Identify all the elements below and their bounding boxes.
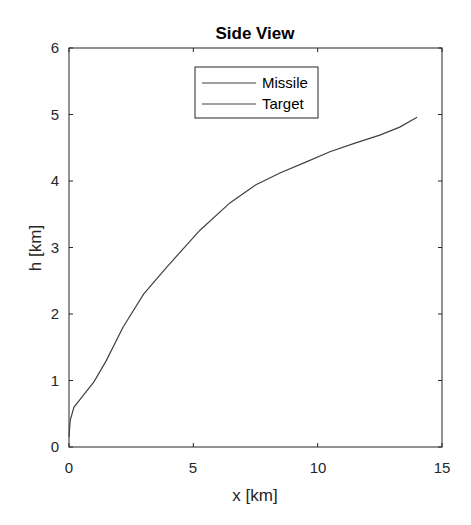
x-axis-label: x [km] xyxy=(232,486,277,505)
x-tick-label: 0 xyxy=(65,459,73,476)
y-tick-label: 4 xyxy=(51,172,59,189)
x-tick-label: 5 xyxy=(189,459,197,476)
y-tick-label: 2 xyxy=(51,305,59,322)
x-tick-labels: 0 5 10 15 xyxy=(65,459,451,476)
y-tick-label: 6 xyxy=(51,39,59,56)
chart-title: Side View xyxy=(215,24,295,43)
legend-label-missile: Missile xyxy=(262,74,308,91)
x-tick-label: 10 xyxy=(310,459,327,476)
y-tick-label: 3 xyxy=(51,239,59,256)
legend-label-target: Target xyxy=(262,95,305,112)
y-axis-label: h [km] xyxy=(26,225,45,271)
y-tick-label: 1 xyxy=(51,372,59,389)
y-tick-label: 5 xyxy=(51,106,59,123)
legend: Missile Target xyxy=(195,67,318,118)
x-tick-label: 15 xyxy=(434,459,451,476)
side-view-chart: Side View 0 5 10 15 0 1 2 3 4 5 6 x [km]… xyxy=(0,0,471,525)
y-tick-labels: 0 1 2 3 4 5 6 xyxy=(51,39,59,455)
y-tick-label: 0 xyxy=(51,438,59,455)
